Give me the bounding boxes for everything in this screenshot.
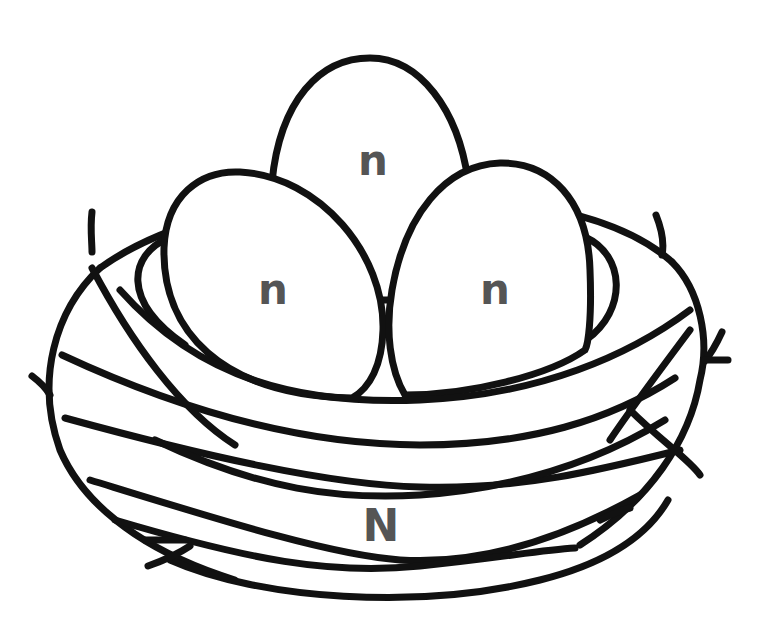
egg-right-label: n bbox=[480, 269, 510, 311]
egg-left-label: n bbox=[258, 269, 288, 311]
nest-outer-right bbox=[580, 262, 704, 545]
nest-strand-2 bbox=[65, 418, 680, 487]
nest-strand-7 bbox=[610, 330, 690, 440]
twig-left-top bbox=[91, 212, 92, 252]
coloring-page: n n n N bbox=[0, 0, 774, 630]
nest-label: N bbox=[363, 504, 400, 548]
nest-bottom bbox=[170, 500, 668, 597]
egg-top-label: n bbox=[358, 140, 388, 182]
